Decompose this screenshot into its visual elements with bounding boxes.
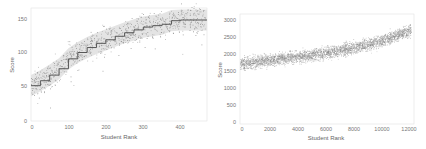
left-ytick: 0 [24,118,27,124]
right-ytick: 2000 [224,51,236,57]
right-ytick: 0 [233,119,236,125]
right-ytick: 2500 [224,34,236,40]
right-y-ticks: 0 500 1000 1500 2000 2500 3000 [224,17,236,125]
left-x-ticks: 0 100 200 300 400 [30,124,184,130]
right-chart-canvas: 0 500 1000 1500 2000 2500 3000 0 2000 40… [213,0,426,149]
left-xtick: 0 [30,124,33,130]
left-ytick: 50 [21,83,27,89]
left-ytick: 100 [18,49,27,55]
right-plot-area [240,14,414,124]
right-xtick: 2000 [264,126,276,132]
right-xtick: 12000 [401,126,416,132]
right-score-chart: 0 500 1000 1500 2000 2500 3000 0 2000 40… [213,0,426,149]
left-chart-canvas: 0 50 100 150 0 100 200 300 400 Student R… [0,0,213,149]
right-xtick: 4000 [292,126,304,132]
right-xtick: 8000 [348,126,360,132]
left-xtick: 300 [138,124,147,130]
right-xtick: 10000 [374,126,389,132]
right-x-axis-label: Student Rank [308,135,345,141]
left-xtick: 200 [101,124,110,130]
right-y-axis-label: Score [217,62,223,78]
right-ytick: 1500 [224,68,236,74]
right-ytick: 500 [227,102,236,108]
right-ytick: 3000 [224,17,236,23]
left-ytick: 150 [18,16,27,22]
left-score-chart: 0 50 100 150 0 100 200 300 400 Student R… [0,0,213,149]
right-x-ticks: 0 2000 4000 6000 8000 10000 12000 [240,126,416,132]
right-xtick: 6000 [320,126,332,132]
left-y-axis-label: Score [9,57,15,73]
left-x-axis-label: Student Rank [101,134,138,140]
left-xtick: 400 [175,124,184,130]
left-y-ticks: 0 50 100 150 [18,16,27,124]
right-xtick: 0 [240,126,243,132]
left-xtick: 100 [64,124,73,130]
right-ytick: 1000 [224,85,236,91]
